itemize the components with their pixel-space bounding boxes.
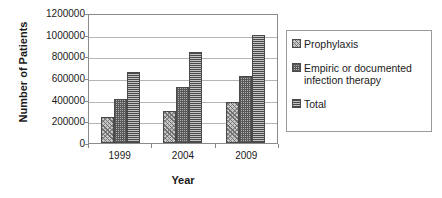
x-axis-title: Year bbox=[88, 174, 278, 186]
bar bbox=[127, 72, 140, 143]
legend-item-label: Prophylaxis bbox=[304, 38, 358, 50]
x-axis-tick-label: 2009 bbox=[235, 150, 257, 161]
y-axis-tick-label: 1000000 bbox=[30, 31, 85, 41]
y-axis-tick-labels: 120000010000008000006000004000002000000 bbox=[30, 14, 85, 144]
bar bbox=[252, 35, 265, 143]
bar bbox=[114, 99, 127, 143]
legend-swatch-icon bbox=[292, 99, 301, 108]
bar bbox=[163, 111, 176, 144]
y-axis-tick-label: 200000 bbox=[30, 117, 85, 127]
legend-item[interactable]: Prophylaxis bbox=[292, 38, 427, 50]
bar-group bbox=[226, 15, 265, 143]
y-axis-tick-label: 800000 bbox=[30, 52, 85, 62]
x-axis-tickmark bbox=[215, 144, 216, 148]
bar bbox=[101, 117, 114, 143]
legend-item[interactable]: Total bbox=[292, 98, 427, 110]
bar-group bbox=[101, 15, 140, 143]
y-axis-tick-label: 600000 bbox=[30, 74, 85, 84]
y-axis-tick-label: 400000 bbox=[30, 96, 85, 106]
bar bbox=[226, 102, 239, 143]
legend-swatch-icon bbox=[292, 39, 301, 48]
bar bbox=[189, 52, 202, 143]
x-axis-tickmark bbox=[151, 144, 152, 148]
legend-item-label: Total bbox=[304, 98, 326, 110]
bars-layer bbox=[89, 15, 277, 143]
x-axis-tick-label: 2004 bbox=[172, 150, 194, 161]
x-axis-tick-labels: 199920042009 bbox=[88, 150, 278, 161]
plot-area bbox=[88, 14, 278, 144]
bar-chart: Number of Patients 120000010000008000006… bbox=[0, 0, 442, 198]
x-axis-tick-label: 1999 bbox=[109, 150, 131, 161]
y-axis-title: Number of Patients bbox=[17, 2, 29, 142]
bar bbox=[239, 76, 252, 143]
legend-item-label: Empiric or documented infection therapy bbox=[304, 62, 427, 86]
bar-group bbox=[163, 15, 202, 143]
bar bbox=[176, 87, 189, 143]
legend-item[interactable]: Empiric or documented infection therapy bbox=[292, 62, 427, 86]
x-axis-tickmark bbox=[278, 144, 279, 148]
y-axis-tick-label: 0 bbox=[30, 139, 85, 149]
chart-legend: ProphylaxisEmpiric or documented infecti… bbox=[286, 30, 432, 132]
x-axis-tickmark bbox=[88, 144, 89, 148]
y-axis-tick-label: 1200000 bbox=[30, 9, 85, 19]
legend-swatch-icon bbox=[292, 63, 301, 72]
